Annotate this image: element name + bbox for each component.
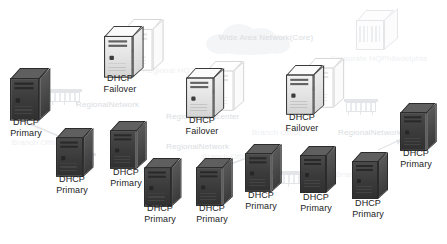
node-caption-line1: DHCP	[344, 198, 392, 209]
node-caption-line1: DHCP	[96, 73, 144, 84]
node-caption-line2: Primary	[292, 203, 340, 214]
node-caption: DHCPPrimary	[48, 174, 96, 195]
node-caption-line2: Failover	[96, 84, 144, 95]
node-caption-line1: DHCP	[278, 112, 326, 123]
node-caption-line2: Primary	[102, 178, 150, 189]
node-caption-line1: DHCP	[237, 190, 285, 201]
node-caption-line2: Primary	[237, 201, 285, 212]
node-caption-line2: Primary	[344, 209, 392, 220]
zone-label-line2: (Core)	[290, 33, 314, 42]
node-caption-line1: DHCP	[178, 115, 226, 126]
node-caption: DHCPFailover	[278, 112, 326, 133]
zone-label-line2: Network	[109, 100, 139, 109]
node-caption-line1: DHCP	[392, 148, 440, 159]
node-caption: DHCPPrimary	[344, 198, 392, 219]
background-zone-label: RegionalNetwork	[76, 100, 134, 110]
background-zone-label: RegionalNetwork	[338, 128, 396, 138]
zone-label-line1: Regional	[338, 128, 371, 137]
node-caption-line1: DHCP	[2, 117, 50, 128]
background-zone-label: Wide Area Network(Core)	[218, 33, 314, 43]
node-caption-line2: Primary	[48, 185, 96, 196]
node-caption-line2: Failover	[278, 123, 326, 134]
node-caption-line1: DHCP	[292, 192, 340, 203]
zone-label-line2: Philadelphia	[382, 54, 427, 63]
node-caption: DHCPPrimary	[392, 148, 440, 169]
background-zone-label: RegionalNetwork	[166, 142, 224, 152]
zone-label-line1: Wide Area Network	[219, 33, 290, 42]
node-caption-line1: DHCP	[48, 174, 96, 185]
zone-label-line2: Network	[371, 128, 401, 137]
node-caption: DHCPPrimary	[102, 167, 150, 188]
node-caption-line1: DHCP	[136, 203, 184, 214]
node-caption: DHCPFailover	[96, 73, 144, 94]
node-caption: DHCPPrimary	[237, 190, 285, 211]
node-caption-line1: DHCP	[188, 203, 236, 214]
zone-label-line1: Regional	[166, 142, 199, 151]
node-caption: DHCPPrimary	[292, 192, 340, 213]
node-caption-line2: Failover	[178, 126, 226, 137]
node-caption: DHCPFailover	[178, 115, 226, 136]
node-caption-line2: Primary	[392, 159, 440, 170]
zone-label-line1: Branch Office	[12, 138, 62, 147]
node-caption-line2: Primary	[136, 214, 184, 225]
node-caption: DHCPPrimary	[188, 203, 236, 224]
node-caption-line2: Primary	[188, 214, 236, 225]
zone-label-line1: Regional	[76, 100, 109, 109]
node-caption-line1: DHCP	[102, 167, 150, 178]
network-switch-icon	[344, 96, 378, 114]
network-diagram-canvas: Wide Area Network(Core)Corporate HQPhila…	[0, 0, 447, 244]
node-caption: DHCPPrimary	[136, 203, 184, 224]
zone-label-line2: Network	[199, 142, 229, 151]
node-caption: DHCPPrimary	[2, 117, 50, 138]
corporate-hq-building-icon	[356, 10, 402, 54]
node-caption-line2: Primary	[2, 128, 50, 139]
